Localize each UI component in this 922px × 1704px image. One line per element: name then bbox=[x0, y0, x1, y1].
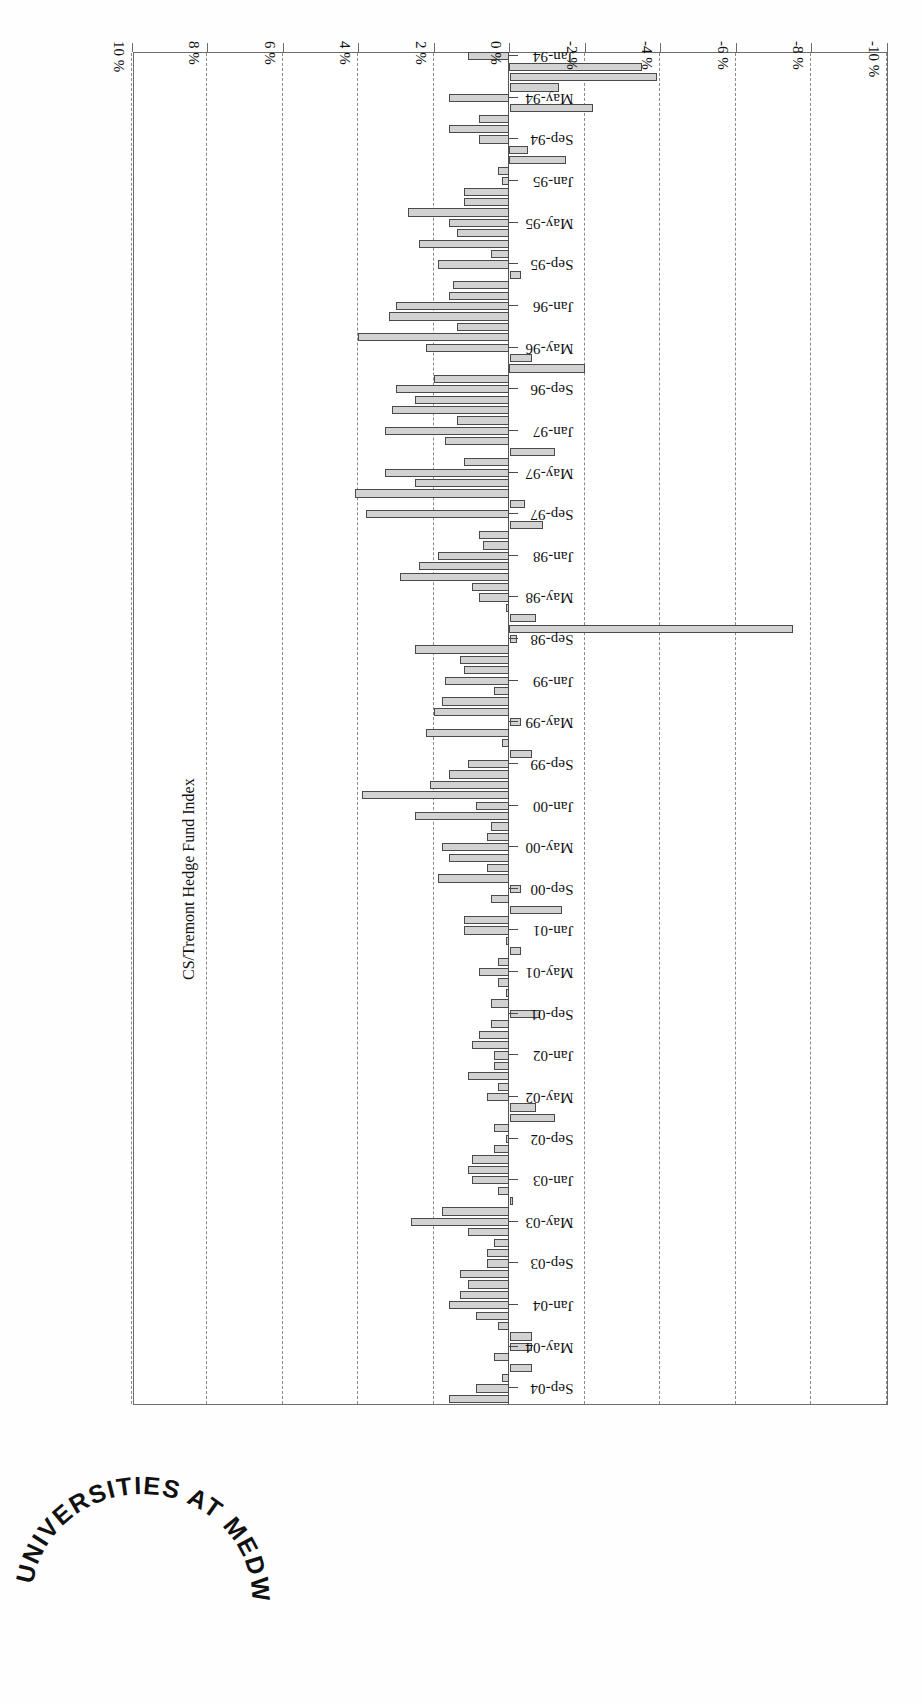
bar bbox=[385, 427, 510, 435]
bar bbox=[445, 437, 509, 445]
gridline--8 bbox=[811, 53, 812, 1404]
bar bbox=[487, 1260, 510, 1268]
chart-title: CS/Tremont Hedge Fund Index bbox=[180, 778, 198, 980]
bar bbox=[385, 469, 510, 477]
category-tick bbox=[510, 929, 519, 930]
bar bbox=[419, 562, 510, 570]
bar bbox=[498, 1187, 509, 1195]
value-tick-label: -6 % bbox=[715, 41, 731, 70]
bar bbox=[457, 416, 510, 424]
bar bbox=[510, 146, 529, 154]
bar bbox=[445, 677, 509, 685]
bar bbox=[411, 1218, 509, 1226]
bar bbox=[442, 843, 510, 851]
bar bbox=[476, 1384, 510, 1392]
category-label: May-95 bbox=[525, 216, 573, 231]
bar bbox=[359, 333, 510, 341]
bar bbox=[510, 885, 521, 893]
category-tick bbox=[510, 596, 519, 597]
bar bbox=[449, 770, 509, 778]
bar bbox=[498, 1322, 509, 1330]
bar bbox=[491, 1020, 510, 1028]
bar bbox=[510, 614, 536, 622]
category-tick bbox=[510, 472, 519, 473]
category-label: Jan-96 bbox=[533, 299, 574, 314]
bar bbox=[449, 292, 509, 300]
bar bbox=[449, 219, 509, 227]
gridline-10 bbox=[131, 53, 132, 1404]
bar bbox=[434, 708, 510, 716]
value-tick bbox=[736, 43, 737, 52]
bar bbox=[479, 1031, 509, 1039]
category-tick bbox=[510, 971, 519, 972]
bar bbox=[396, 385, 509, 393]
category-label: Sep-01 bbox=[530, 1007, 573, 1022]
category-label: Sep-02 bbox=[530, 1132, 573, 1147]
bar bbox=[502, 1374, 510, 1382]
category-tick bbox=[510, 1263, 519, 1264]
category-tick bbox=[510, 97, 519, 98]
bar bbox=[494, 1124, 509, 1132]
bar bbox=[472, 583, 510, 591]
bar bbox=[494, 1062, 509, 1070]
category-tick bbox=[510, 1054, 519, 1055]
value-axis: 10 %8 %6 %4 %2 %0 %-2 %-4 %-6 %-8 %-10 % bbox=[133, 0, 888, 52]
category-label: Sep-98 bbox=[530, 632, 573, 647]
category-tick bbox=[510, 513, 519, 514]
gridline--10 bbox=[886, 53, 887, 1404]
category-label: Jan-02 bbox=[533, 1048, 574, 1063]
bar bbox=[498, 979, 509, 987]
category-tick bbox=[510, 555, 519, 556]
gridline--4 bbox=[660, 53, 661, 1404]
bar bbox=[362, 791, 509, 799]
bar bbox=[487, 864, 510, 872]
bar bbox=[494, 1145, 509, 1153]
category-label: May-02 bbox=[525, 1090, 573, 1105]
bar bbox=[494, 687, 509, 695]
category-tick bbox=[510, 763, 519, 764]
value-tick-label: -2 % bbox=[564, 41, 580, 70]
bar bbox=[392, 406, 509, 414]
value-tick-label: -8 % bbox=[791, 41, 807, 70]
bar bbox=[355, 489, 510, 497]
bar bbox=[430, 781, 509, 789]
bar bbox=[487, 1249, 510, 1257]
bar bbox=[502, 739, 510, 747]
category-tick bbox=[510, 180, 519, 181]
bar bbox=[506, 989, 510, 997]
bar bbox=[457, 323, 510, 331]
category-label: Sep-00 bbox=[530, 882, 573, 897]
value-tick-label: -10 % bbox=[866, 41, 882, 77]
bar bbox=[506, 937, 510, 945]
category-tick bbox=[510, 430, 519, 431]
category-label: Jan-00 bbox=[533, 799, 574, 814]
bar bbox=[487, 1093, 510, 1101]
category-label: Jan-01 bbox=[533, 923, 574, 938]
bar bbox=[483, 541, 509, 549]
category-label: May-00 bbox=[525, 840, 573, 855]
bar bbox=[464, 926, 509, 934]
bar bbox=[510, 73, 657, 81]
value-tick bbox=[510, 43, 511, 52]
bar bbox=[449, 1301, 509, 1309]
bar bbox=[479, 593, 509, 601]
bar bbox=[449, 125, 509, 133]
bar bbox=[468, 1228, 510, 1236]
bar bbox=[479, 135, 509, 143]
bar bbox=[491, 250, 510, 258]
bar bbox=[460, 656, 509, 664]
bar bbox=[502, 177, 510, 185]
bar bbox=[476, 1312, 510, 1320]
bar bbox=[415, 645, 509, 653]
bar bbox=[494, 1051, 509, 1059]
category-label: Sep-99 bbox=[530, 757, 573, 772]
value-tick bbox=[585, 43, 586, 52]
bar bbox=[468, 1280, 510, 1288]
bar bbox=[438, 260, 510, 268]
bar bbox=[510, 1197, 514, 1205]
bar bbox=[415, 479, 509, 487]
bar bbox=[408, 208, 510, 216]
category-label: May-97 bbox=[525, 466, 573, 481]
bar bbox=[457, 229, 510, 237]
bar bbox=[415, 396, 509, 404]
